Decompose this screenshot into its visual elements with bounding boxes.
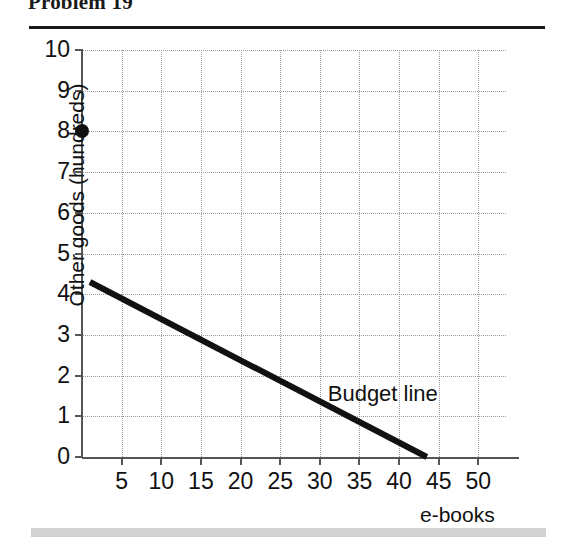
budget-line-chart: 012345678910 5101520253035404550 Other g…	[0, 0, 573, 548]
gridline-vertical	[241, 50, 242, 457]
tick-label-x: 30	[300, 470, 340, 493]
tick-mark-y	[75, 456, 83, 458]
tick-mark-x	[160, 457, 162, 465]
tick-label-x: 50	[458, 470, 498, 493]
gridline-horizontal	[82, 172, 506, 173]
gridline-horizontal	[82, 294, 506, 295]
gridline-vertical	[280, 50, 281, 457]
tick-label-y: 1	[34, 404, 70, 427]
tick-label-x: 45	[419, 470, 459, 493]
tick-mark-y	[75, 415, 83, 417]
tick-mark-x	[438, 457, 440, 465]
tick-mark-y	[75, 375, 83, 377]
plot-area	[82, 50, 518, 457]
gridline-horizontal	[82, 50, 506, 51]
gridline-horizontal	[82, 213, 506, 214]
y-axis-title: Other goods (hundreds)	[65, 65, 89, 325]
tick-label-y: 0	[34, 445, 70, 468]
x-axis-title: e-books	[420, 503, 495, 527]
gridline-vertical	[201, 50, 202, 457]
x-axis-line	[82, 457, 519, 459]
tick-label-y: 2	[34, 364, 70, 387]
budget-line-label: Budget line	[328, 381, 438, 407]
gridline-horizontal	[82, 131, 506, 132]
tick-mark-x	[319, 457, 321, 465]
gridline-vertical	[439, 50, 440, 457]
tick-label-x: 5	[102, 470, 142, 493]
gridline-horizontal	[82, 376, 506, 377]
tick-label-x: 25	[260, 470, 300, 493]
tick-mark-x	[279, 457, 281, 465]
tick-mark-x	[121, 457, 123, 465]
tick-label-x: 40	[379, 470, 419, 493]
tick-mark-y	[75, 49, 83, 51]
footer-bar	[31, 528, 546, 537]
gridline-horizontal	[82, 91, 506, 92]
gridline-vertical	[161, 50, 162, 457]
tick-label-y: 10	[34, 38, 70, 61]
tick-label-x: 35	[339, 470, 379, 493]
tick-mark-x	[398, 457, 400, 465]
problem-figure-page: Problem 19 012345678910 5101520253035404…	[0, 0, 573, 548]
gridline-horizontal	[82, 335, 506, 336]
tick-mark-x	[200, 457, 202, 465]
tick-label-y: 3	[34, 323, 70, 346]
tick-mark-x	[240, 457, 242, 465]
tick-label-x: 10	[141, 470, 181, 493]
gridline-horizontal	[82, 254, 506, 255]
tick-label-x: 15	[181, 470, 221, 493]
tick-mark-y	[75, 334, 83, 336]
gridline-horizontal	[82, 416, 506, 417]
gridline-vertical	[320, 50, 321, 457]
tick-mark-x	[358, 457, 360, 465]
gridline-vertical	[122, 50, 123, 457]
gridline-vertical	[478, 50, 479, 457]
tick-mark-x	[477, 457, 479, 465]
tick-label-x: 20	[221, 470, 261, 493]
